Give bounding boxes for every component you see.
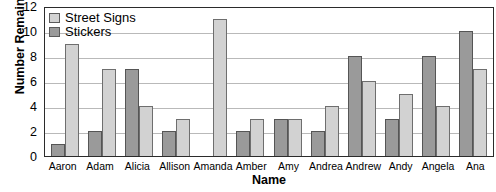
bar-group xyxy=(269,8,306,156)
y-axis-tick-labels: 024681012 xyxy=(0,7,42,157)
bar-signs-andy xyxy=(399,94,413,157)
bar-stickers-amber xyxy=(236,131,250,156)
bar-stickers-allison xyxy=(162,131,176,156)
chart-legend: Street SignsStickers xyxy=(49,11,136,38)
x-tick-label: Andrea xyxy=(307,158,344,174)
y-tick-label: 2 xyxy=(30,125,37,139)
bar-group xyxy=(232,8,269,156)
x-tick-label: Ana xyxy=(457,158,494,174)
legend-item: Street Signs xyxy=(49,11,136,24)
bar-signs-aaron xyxy=(65,44,79,157)
bar-signs-alicia xyxy=(139,106,153,156)
bar-group xyxy=(418,8,455,156)
x-tick-label: Alicia xyxy=(119,158,156,174)
y-tick-label: 10 xyxy=(23,25,37,39)
y-tick-label: 12 xyxy=(23,0,37,14)
bar-signs-angela xyxy=(436,106,450,156)
x-tick-label: Allison xyxy=(156,158,193,174)
bar-stickers-amy xyxy=(274,119,288,157)
bar-stickers-andrea xyxy=(311,131,325,156)
x-tick-label: Amber xyxy=(233,158,270,174)
legend-swatch-icon xyxy=(49,13,60,23)
legend-swatch-icon xyxy=(49,27,60,37)
bar-group xyxy=(158,8,195,156)
x-tick-label: Amy xyxy=(270,158,307,174)
bar-group xyxy=(343,8,380,156)
bar-signs-andrew xyxy=(362,81,376,156)
x-tick-label: Adam xyxy=(81,158,118,174)
bar-stickers-ana xyxy=(459,31,473,156)
bar-stickers-andrew xyxy=(348,56,362,156)
bar-signs-allison xyxy=(176,119,190,157)
bar-stickers-adam xyxy=(88,131,102,156)
bar-group xyxy=(306,8,343,156)
y-tick-label: 4 xyxy=(30,100,37,114)
bar-stickers-andy xyxy=(385,119,399,157)
legend-label: Street Signs xyxy=(65,11,136,24)
y-tick-label: 0 xyxy=(30,150,37,164)
bar-signs-adam xyxy=(102,69,116,157)
bar-group xyxy=(381,8,418,156)
x-tick-label: Andrew xyxy=(345,158,382,174)
bar-group xyxy=(195,8,232,156)
x-tick-label: Aaron xyxy=(44,158,81,174)
legend-item: Stickers xyxy=(49,25,136,38)
bar-group xyxy=(455,8,492,156)
bar-signs-ana xyxy=(473,69,487,157)
x-tick-label: Amanda xyxy=(193,158,232,174)
y-tick-label: 6 xyxy=(30,75,37,89)
x-tick-label: Andy xyxy=(382,158,419,174)
bar-stickers-angela xyxy=(422,56,436,156)
bar-chart: Graph of Results for Survey Number Remai… xyxy=(0,0,496,192)
bar-stickers-aaron xyxy=(51,144,65,157)
x-axis-tick-labels: AaronAdamAliciaAllisonAmandaAmberAmyAndr… xyxy=(44,158,494,174)
legend-label: Stickers xyxy=(65,25,111,38)
bar-signs-amanda xyxy=(213,19,227,157)
bar-signs-amy xyxy=(288,119,302,157)
bar-signs-amber xyxy=(250,119,264,157)
bar-signs-andrea xyxy=(325,106,339,156)
x-tick-label: Angela xyxy=(419,158,456,174)
x-axis-title: Name xyxy=(44,173,494,187)
bar-stickers-alicia xyxy=(125,69,139,157)
y-tick-label: 8 xyxy=(30,50,37,64)
